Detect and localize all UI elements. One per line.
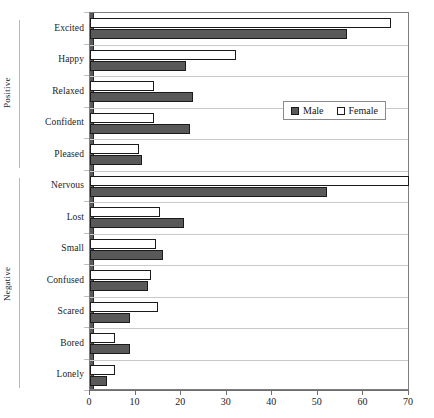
- category-separator: [90, 297, 408, 298]
- bar-female-pleased: [90, 144, 139, 154]
- category-label-row: Scared: [22, 304, 84, 318]
- legend: Male Female: [283, 101, 386, 120]
- bar-female-confused: [90, 270, 151, 280]
- x-tick: [89, 390, 90, 395]
- bar-male-confused: [90, 281, 148, 291]
- bar-male-confident: [90, 124, 190, 134]
- x-tick-label-40: 40: [266, 396, 276, 407]
- bar-male-happy: [90, 61, 186, 71]
- bar-male-nervous: [90, 187, 327, 197]
- category-label-bored: Bored: [60, 338, 84, 348]
- category-separator: [90, 45, 408, 46]
- bar-female-bored: [90, 333, 115, 343]
- x-tick-label-70: 70: [403, 396, 413, 407]
- x-axis: 010203040506070: [89, 390, 409, 416]
- x-tick: [317, 390, 318, 395]
- category-label-row: Lonely: [22, 367, 84, 381]
- category-label-row: Confident: [22, 115, 84, 129]
- category-label-pleased: Pleased: [54, 149, 84, 159]
- legend-item-male[interactable]: Male: [291, 105, 324, 116]
- category-label-row: Bored: [22, 336, 84, 350]
- category-label-nervous: Nervous: [51, 180, 84, 190]
- x-tick: [408, 390, 409, 395]
- bar-male-lost: [90, 218, 184, 228]
- female-swatch-icon: [337, 107, 345, 115]
- legend-label-male: Male: [303, 105, 324, 116]
- bar-female-nervous: [90, 176, 409, 186]
- group-label-negative: Negative: [2, 180, 20, 388]
- category-label-scared: Scared: [58, 306, 84, 316]
- bar-female-excited: [90, 18, 391, 28]
- x-tick: [226, 390, 227, 395]
- bar-female-confident: [90, 113, 154, 123]
- category-label-excited: Excited: [54, 23, 84, 33]
- category-label-row: Excited: [22, 21, 84, 35]
- x-tick: [271, 390, 272, 395]
- bar-female-lonely: [90, 365, 115, 375]
- category-separator: [90, 328, 408, 329]
- bar-male-small: [90, 250, 163, 260]
- category-label-row: Happy: [22, 52, 84, 66]
- category-label-row: Nervous: [22, 178, 84, 192]
- category-label-relaxed: Relaxed: [52, 86, 84, 96]
- category-label-row: Relaxed: [22, 84, 84, 98]
- plot-area: [89, 12, 409, 390]
- bar-male-lonely: [90, 376, 107, 386]
- x-axis-line: [89, 390, 409, 391]
- legend-label-female: Female: [349, 105, 378, 116]
- category-label-small: Small: [61, 243, 84, 253]
- category-label-lost: Lost: [67, 212, 84, 222]
- bar-male-pleased: [90, 155, 142, 165]
- x-tick-label-0: 0: [87, 396, 92, 407]
- x-tick: [135, 390, 136, 395]
- category-label-confident: Confident: [45, 117, 84, 127]
- x-tick-label-10: 10: [130, 396, 140, 407]
- category-separator: [90, 171, 408, 172]
- group-axis: Positive Negative: [2, 12, 20, 390]
- x-tick-label-30: 30: [221, 396, 231, 407]
- category-label-happy: Happy: [58, 54, 84, 64]
- x-tick: [180, 390, 181, 395]
- category-separator: [90, 202, 408, 203]
- category-label-row: Confused: [22, 273, 84, 287]
- category-separator: [90, 139, 408, 140]
- bar-female-relaxed: [90, 81, 154, 91]
- bar-chart: Positive Negative ExcitedHappyRelaxedCon…: [0, 0, 434, 418]
- x-tick-label-60: 60: [357, 396, 367, 407]
- category-label-row: Small: [22, 241, 84, 255]
- x-tick-label-50: 50: [312, 396, 322, 407]
- x-tick: [362, 390, 363, 395]
- bar-male-excited: [90, 29, 347, 39]
- category-label-row: Lost: [22, 210, 84, 224]
- category-separator: [90, 360, 408, 361]
- category-separator: [90, 265, 408, 266]
- bar-female-small: [90, 239, 156, 249]
- bar-female-happy: [90, 50, 236, 60]
- category-label-confused: Confused: [47, 275, 84, 285]
- bar-male-bored: [90, 344, 130, 354]
- legend-item-female[interactable]: Female: [337, 105, 378, 116]
- x-tick-label-20: 20: [175, 396, 185, 407]
- group-label-positive: Positive: [2, 18, 20, 168]
- bar-female-lost: [90, 207, 160, 217]
- category-label-lonely: Lonely: [56, 369, 84, 379]
- category-separator: [90, 234, 408, 235]
- bar-male-relaxed: [90, 92, 193, 102]
- bar-female-scared: [90, 302, 158, 312]
- category-separator: [90, 76, 408, 77]
- category-label-row: Pleased: [22, 147, 84, 161]
- bar-male-scared: [90, 313, 130, 323]
- male-swatch-icon: [291, 107, 299, 115]
- plot-inner: [90, 13, 408, 389]
- category-axis: ExcitedHappyRelaxedConfidentPleasedNervo…: [22, 12, 88, 390]
